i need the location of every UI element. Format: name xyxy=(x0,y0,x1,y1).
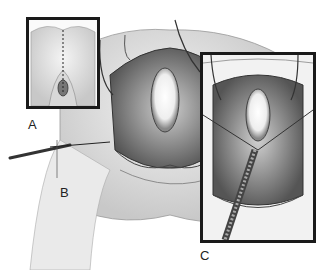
panel-label-c: C xyxy=(200,249,209,262)
inset-panel-c xyxy=(200,52,316,243)
panel-label-b: B xyxy=(60,186,69,199)
perineum-drawing xyxy=(29,20,97,106)
closeup-surgical-field-drawing xyxy=(203,55,313,240)
inset-panel-a xyxy=(26,17,100,109)
panel-label-a: A xyxy=(28,118,37,131)
surgical-illustration: A B C xyxy=(0,0,330,270)
